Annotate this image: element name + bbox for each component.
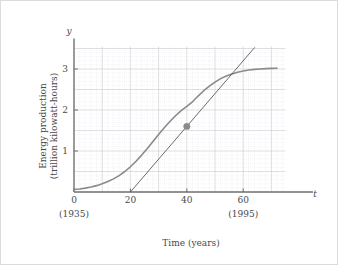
figure-frame: 0204060123(1935)(1995) y t Time (years) …	[0, 0, 338, 265]
x-tick-label: 20	[125, 195, 137, 205]
minor-gridlines	[74, 46, 286, 192]
y-axis-title-line1: Energy production	[38, 83, 48, 169]
y-axis-title-line2: (trillion kilowatt-hours)	[49, 73, 59, 179]
major-gridlines	[74, 46, 286, 192]
y-tick-label: 3	[62, 64, 68, 74]
x-tick-label: 40	[181, 195, 193, 205]
x-tick-label: 60	[237, 195, 249, 205]
x-axis-title: Time (years)	[162, 238, 219, 248]
energy-production-chart: 0204060123(1935)(1995) y t Time (years) …	[1, 1, 338, 265]
y-tick-label: 1	[62, 146, 68, 156]
y-axis-variable-label: y	[65, 26, 72, 36]
inflection-point	[184, 123, 190, 129]
y-tick-label: 2	[62, 105, 68, 115]
x-axis-variable-label: t	[313, 189, 317, 199]
tangent-line-at-inflection	[130, 48, 254, 192]
x-year-label: (1995)	[228, 209, 258, 219]
x-year-label: (1935)	[59, 209, 89, 219]
x-tick-label: 0	[71, 195, 77, 205]
data-series	[74, 48, 277, 192]
data-markers	[184, 123, 190, 129]
